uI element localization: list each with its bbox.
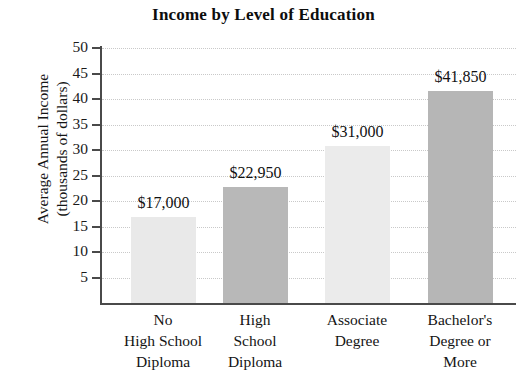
y-axis-tick-label: 45 xyxy=(48,66,88,80)
y-axis-line xyxy=(100,46,102,304)
bar xyxy=(325,146,390,304)
x-axis-category-label: Associate Degree xyxy=(298,309,416,351)
bar-value-label: $41,850 xyxy=(402,68,519,86)
x-axis-line xyxy=(100,303,516,305)
gridline xyxy=(102,48,516,49)
bar xyxy=(428,91,493,304)
x-axis-category-label: Bachelor's Degree or More xyxy=(401,309,519,372)
y-axis-tick-label: 20 xyxy=(48,193,88,207)
plot-area: $17,000$22,950$31,000$41,850 xyxy=(100,44,516,304)
x-axis-category-label: High School Diploma xyxy=(196,309,314,372)
y-axis-tick-label: 40 xyxy=(48,91,88,105)
y-axis-tick-label: 10 xyxy=(48,244,88,258)
chart-title: Income by Level of Education xyxy=(0,5,527,25)
y-axis-tick-label: 5 xyxy=(48,270,88,284)
chart-figure: Income by Level of Education Average Ann… xyxy=(0,0,527,378)
bar xyxy=(223,187,288,304)
y-axis-tick-label: 30 xyxy=(48,142,88,156)
y-axis-tick-label: 35 xyxy=(48,117,88,131)
bar-value-label: $31,000 xyxy=(299,123,416,141)
y-axis-tick-label: 15 xyxy=(48,219,88,233)
y-axis-tick-label: 25 xyxy=(48,168,88,182)
bar-value-label: $17,000 xyxy=(105,194,222,212)
bar-value-label: $22,950 xyxy=(197,164,314,182)
y-axis-tick-label: 50 xyxy=(48,40,88,54)
bar xyxy=(131,217,196,304)
